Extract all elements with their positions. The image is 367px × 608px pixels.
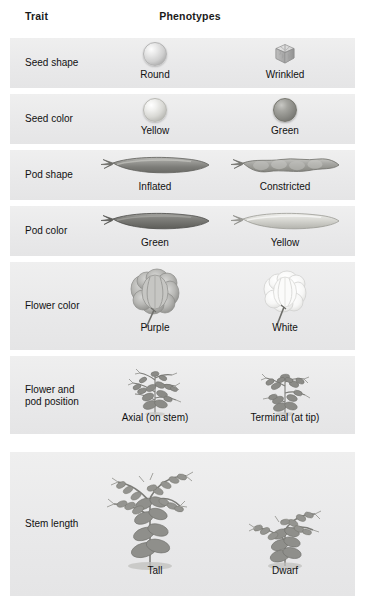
phenotype-cell-tall: Tall — [95, 452, 215, 596]
phenotype-caption: Tall — [95, 565, 215, 576]
table-row-pod-shape: Pod shape Infla — [10, 150, 355, 200]
phenotype-cell-purple-flower: Purple — [95, 262, 215, 350]
phenotype-caption: Yellow — [225, 237, 345, 248]
phenotype-cell-yellow-seed: Yellow — [95, 94, 215, 144]
white-flower-icon — [225, 270, 345, 328]
phenotype-caption: Axial (on stem) — [95, 412, 215, 423]
trait-label: Stem length — [25, 518, 78, 530]
phenotype-cell-green-pod: Green — [95, 206, 215, 256]
trait-label: Pod color — [25, 225, 67, 237]
table-row-seed-shape: Seed shape Round — [10, 38, 355, 88]
green-seed-icon — [273, 98, 297, 122]
phenotype-cell-dwarf: Dwarf — [225, 452, 345, 596]
phenotype-caption: Purple — [95, 322, 215, 333]
phenotype-caption: Round — [95, 69, 215, 80]
wrinkled-seed-icon — [273, 42, 297, 66]
phenotype-cell-white-flower: White — [225, 262, 345, 350]
phenotype-caption: Terminal (at tip) — [225, 412, 345, 423]
phenotype-caption: Green — [225, 125, 345, 136]
tall-plant-icon — [95, 458, 215, 570]
phenotype-cell-yellow-pod: Yellow — [225, 206, 345, 256]
inflated-pod-icon — [95, 153, 215, 177]
phenotype-cell-terminal: Terminal (at tip) — [225, 356, 345, 434]
yellow-seed-icon — [143, 98, 167, 122]
terminal-plant-icon — [225, 360, 345, 416]
phenotype-caption: Dwarf — [225, 565, 345, 576]
phenotype-cell-constricted-pod: Constricted — [225, 150, 345, 200]
phenotype-cell-axial: Axial (on stem) — [95, 356, 215, 434]
axial-plant-icon — [95, 360, 215, 416]
trait-label: Flower and pod position — [25, 384, 79, 408]
phenotype-cell-round: Round — [95, 38, 215, 88]
header-phenotypes: Phenotypes — [130, 10, 250, 22]
table-row-seed-color: Seed color Yellow Green — [10, 94, 355, 144]
yellow-pod-icon — [225, 209, 345, 233]
constricted-pod-icon — [225, 153, 345, 177]
phenotype-caption: Yellow — [95, 125, 215, 136]
table-row-pod-color: Pod color Green — [10, 206, 355, 256]
table-header: Trait Phenotypes — [0, 10, 367, 32]
table-row-flower-pod-position: Flower and pod position — [10, 356, 355, 434]
dwarf-plant-icon — [225, 500, 345, 570]
trait-label: Seed color — [25, 113, 73, 125]
phenotype-cell-inflated-pod: Inflated — [95, 150, 215, 200]
green-pod-icon — [95, 209, 215, 233]
phenotype-cell-wrinkled: Wrinkled — [225, 38, 345, 88]
trait-label: Seed shape — [25, 57, 78, 69]
purple-flower-icon — [95, 268, 215, 330]
phenotype-caption: Inflated — [95, 181, 215, 192]
phenotype-caption: Green — [95, 237, 215, 248]
phenotype-caption: Wrinkled — [225, 69, 345, 80]
trait-label: Flower color — [25, 300, 79, 312]
phenotype-caption: Constricted — [225, 181, 345, 192]
round-seed-icon — [143, 42, 167, 66]
trait-label: Pod shape — [25, 169, 73, 181]
mendel-traits-figure: Trait Phenotypes Seed shape Round — [0, 0, 367, 608]
table-row-flower-color: Flower color — [10, 262, 355, 350]
phenotype-cell-green-seed: Green — [225, 94, 345, 144]
phenotype-caption: White — [225, 322, 345, 333]
header-trait: Trait — [25, 10, 105, 22]
table-row-stem-length: Stem length — [10, 452, 355, 596]
